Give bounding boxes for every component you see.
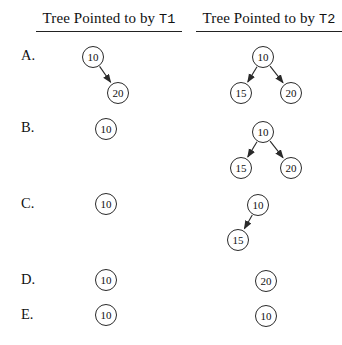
tree-node-b-t2-10: 10 <box>252 121 274 143</box>
edge-a-t2-10-to-20 <box>270 66 283 83</box>
column-header-t1: Tree Pointed to by T1 <box>36 10 182 32</box>
edge-b-t2-10-to-15 <box>248 142 257 157</box>
tree-node-b-t2-20: 20 <box>280 157 302 179</box>
column-header-t2: Tree Pointed to by T2 <box>196 10 342 32</box>
edge-b-t2-10-to-20 <box>270 141 283 158</box>
row-label-c: C. <box>21 195 34 212</box>
column-header-t1-text: Tree Pointed to by <box>43 10 159 26</box>
edge-c-t2-10-to-15 <box>244 215 252 229</box>
row-label-e: E. <box>21 306 33 323</box>
column-header-t2-text: Tree Pointed to by <box>203 10 319 26</box>
row-label-b: B. <box>21 119 34 136</box>
tree-node-e-t2-10: 10 <box>255 305 277 327</box>
tree-node-d-t1-10: 10 <box>95 269 117 291</box>
tree-node-b-t1-10: 10 <box>95 118 117 140</box>
row-label-a: A. <box>21 47 35 64</box>
tree-node-a-t1-10: 10 <box>82 46 104 68</box>
row-label-d: D. <box>21 271 35 288</box>
tree-node-a-t2-15: 15 <box>230 82 252 104</box>
column-header-t2-code: T2 <box>319 12 335 27</box>
tree-node-a-t2-10: 10 <box>252 46 274 68</box>
edge-a-t1-10-to-20 <box>100 66 111 82</box>
tree-node-e-t1-10: 10 <box>95 304 117 326</box>
tree-node-c-t2-15: 15 <box>227 229 249 251</box>
column-header-t1-code: T1 <box>159 12 175 27</box>
tree-node-c-t2-10: 10 <box>247 194 269 216</box>
tree-comparison-figure: Tree Pointed to by T1 Tree Pointed to by… <box>0 0 342 345</box>
tree-node-c-t1-10: 10 <box>95 193 117 215</box>
tree-node-a-t2-20: 20 <box>280 82 302 104</box>
tree-node-d-t2-20: 20 <box>255 270 277 292</box>
edge-a-t2-10-to-15 <box>248 67 257 82</box>
tree-node-b-t2-15: 15 <box>230 157 252 179</box>
tree-node-a-t1-20: 20 <box>107 82 129 104</box>
